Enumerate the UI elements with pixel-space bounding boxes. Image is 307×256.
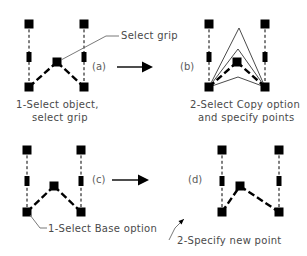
panel-a-caption-line1: 1-Select object,: [16, 99, 99, 110]
panel-c-grip-right-top: [77, 146, 86, 155]
panel-a-label: (a): [92, 61, 106, 72]
arrow-a-to-b: [117, 62, 153, 73]
diagram-canvas: Select grip (a) 1-Select object, select …: [0, 0, 307, 256]
select-grip-leader-line: [61, 36, 119, 60]
panel-d-right-leg: [240, 186, 279, 212]
panel-a-grip-right-bottom: [80, 83, 89, 92]
arrow-a-to-b-head: [142, 62, 153, 73]
panel-b-grip-left-bottom: [205, 83, 214, 92]
grip-copy-diagram: Select grip (a) 1-Select object, select …: [0, 0, 307, 256]
panel-d-grip-right-bottom: [275, 208, 284, 217]
panel-b-grip-left-top: [205, 20, 214, 29]
panel-a-grip-left-bottom: [25, 83, 34, 92]
panel-a-grip-right-mid: [82, 52, 87, 62]
panel-a-grip-left-top: [25, 20, 34, 29]
panel-c-grip-right-mid: [79, 176, 84, 186]
panel-d-caption-line1: 2-Specify new point: [177, 235, 282, 246]
panel-b-grip-right-bottom: [261, 83, 270, 92]
panel-d: (d) 2-Specify new point: [169, 146, 284, 247]
panel-b-grip-apex: [233, 58, 242, 67]
panel-c-label: (c): [92, 174, 105, 185]
panel-d-grip-right-top: [275, 146, 284, 155]
panel-d-grip-left-mid: [220, 176, 225, 186]
panel-b: (b) 2-Select Copy option and specify poi…: [180, 20, 300, 124]
panel-c: 1-Select Base option (c): [23, 146, 158, 235]
panel-d-grip-left-bottom: [218, 208, 227, 217]
arrow-c-to-d-head: [138, 175, 149, 186]
panel-b-grip-left-mid: [207, 52, 212, 62]
panel-c-grip-right-bottom: [77, 208, 86, 217]
panel-a-grip-left-mid: [27, 52, 32, 62]
panel-c-grip-apex: [50, 182, 59, 191]
panel-c-caption-line1: 1-Select Base option: [48, 223, 157, 234]
panel-d-grip-apex: [236, 182, 245, 191]
panel-a-grip-right-top: [80, 20, 89, 29]
panel-c-grip-left-mid: [25, 176, 30, 186]
panel-a: Select grip (a) 1-Select object, select …: [16, 20, 178, 124]
panel-d-grip-right-mid: [277, 176, 282, 186]
panel-d-grip-left-top: [218, 146, 227, 155]
panel-b-grip-right-mid: [263, 52, 268, 62]
panel-a-grip-apex: [53, 58, 62, 67]
panel-c-grip-left-top: [23, 146, 32, 155]
select-grip-callout-label: Select grip: [121, 30, 178, 41]
panel-d-label: (d): [188, 174, 202, 185]
arrow-c-to-d: [112, 175, 149, 186]
panel-a-caption-line2: select grip: [32, 112, 88, 123]
panel-b-caption-line2: and specify points: [198, 112, 295, 123]
base-option-leader-line: [30, 215, 47, 228]
panel-b-caption-line1: 2-Select Copy option: [190, 99, 300, 110]
panel-b-grip-right-top: [261, 20, 270, 29]
panel-b-label: (b): [180, 61, 194, 72]
